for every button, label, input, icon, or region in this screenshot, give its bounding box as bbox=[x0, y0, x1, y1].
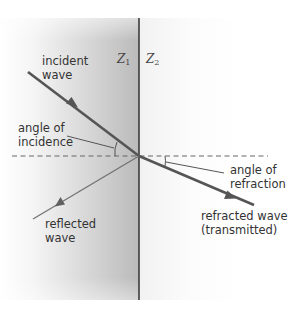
diagram-canvas bbox=[0, 0, 293, 312]
medium-z2-label: Z2 bbox=[146, 52, 159, 67]
medium-z1-label: Z1 bbox=[117, 52, 130, 67]
incident-wave-label: incident wave bbox=[42, 54, 88, 82]
wave-refraction-diagram: Z1 Z2 incident wave angle of incidence a… bbox=[0, 0, 293, 312]
refracted-wave-label: refracted wave (transmitted) bbox=[201, 209, 288, 237]
reflected-wave-label: reflected wave bbox=[45, 217, 96, 245]
angle-of-incidence-label: angle of incidence bbox=[18, 121, 73, 149]
refraction-angle-arc bbox=[165, 156, 166, 167]
angle-of-refraction-label: angle of refraction bbox=[230, 163, 286, 191]
